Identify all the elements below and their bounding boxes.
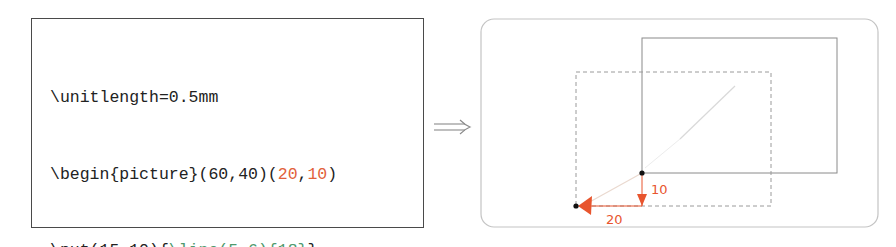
code-text: } — [307, 241, 317, 247]
line-command: \line(5,6){18} — [169, 241, 308, 247]
vertical-offset-label: 10 — [651, 182, 668, 197]
code-text: \unitlength=0.5mm — [50, 88, 218, 107]
picture-diagram: 10 20 — [480, 18, 880, 228]
code-block: \unitlength=0.5mm \begin{picture}(60,40)… — [50, 34, 337, 247]
horizontal-offset-label: 20 — [606, 212, 623, 227]
code-text: \put(15,10){ — [50, 241, 169, 247]
latex-code-panel: \unitlength=0.5mm \begin{picture}(60,40)… — [31, 18, 424, 228]
code-text: ) — [327, 165, 337, 184]
origin-point — [639, 170, 644, 175]
implies-arrow-icon — [432, 117, 472, 137]
diagram-frame — [481, 19, 878, 227]
shifted-origin-point — [573, 203, 578, 208]
code-text: \begin{picture}(60,40)( — [50, 165, 278, 184]
origin-x-value: 20 — [278, 165, 298, 184]
code-text: , — [298, 165, 308, 184]
code-line-1: \unitlength=0.5mm — [50, 85, 337, 111]
code-line-2: \begin{picture}(60,40)(20,10) — [50, 162, 337, 188]
code-line-3: \put(15,10){\line(5,6){18}} — [50, 238, 337, 247]
origin-y-value: 10 — [307, 165, 327, 184]
